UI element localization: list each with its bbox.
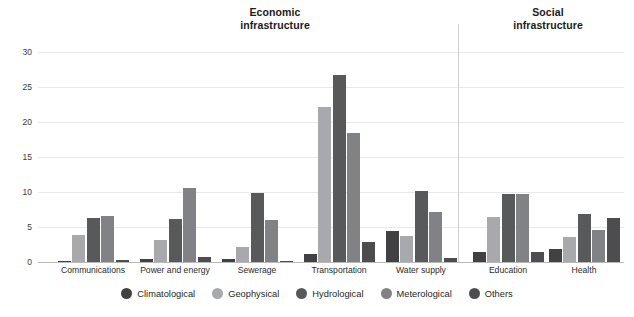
- section-title-economic-line2: infrastructure: [160, 19, 390, 32]
- bar: [516, 194, 529, 262]
- section-title-economic: Economic infrastructure: [160, 6, 390, 32]
- chart-legend: ClimatologicalGeophysicalHydrologicalMet…: [0, 288, 634, 299]
- bar-group: Health: [546, 52, 622, 262]
- bar: [154, 240, 167, 262]
- legend-item[interactable]: Climatological: [121, 288, 195, 299]
- bar: [304, 254, 317, 262]
- section-title-social: Social infrastructure: [478, 6, 618, 32]
- legend-item[interactable]: Meterological: [381, 288, 452, 299]
- y-axis-tick-label: 10: [23, 187, 32, 197]
- bar: [473, 252, 486, 263]
- section-title-economic-line1: Economic: [160, 6, 390, 19]
- bar-group: Education: [470, 52, 546, 262]
- bar: [415, 191, 428, 262]
- bar: [140, 259, 153, 262]
- bar: [58, 261, 71, 262]
- legend-label: Hydrological: [312, 289, 363, 299]
- bar: [101, 216, 114, 262]
- bar: [362, 242, 375, 262]
- section-title-social-line1: Social: [478, 6, 618, 19]
- legend-item[interactable]: Geophysical: [212, 288, 279, 299]
- bar-group: Power and energy: [134, 52, 216, 262]
- bar: [183, 188, 196, 262]
- plot-area: 051015202530 CommunicationsPower and ene…: [38, 52, 624, 262]
- bars-row: [380, 52, 462, 262]
- bars-row: [470, 52, 546, 262]
- y-axis-tick-label: 5: [27, 222, 32, 232]
- bar: [236, 247, 249, 262]
- bars-row: [298, 52, 380, 262]
- bar: [578, 214, 591, 262]
- bar: [198, 257, 211, 262]
- bar: [444, 258, 457, 262]
- bar: [169, 219, 182, 262]
- legend-swatch-icon: [296, 288, 307, 299]
- bar: [429, 212, 442, 262]
- bar: [347, 133, 360, 263]
- bar: [87, 218, 100, 262]
- bar: [251, 193, 264, 262]
- bar: [333, 75, 346, 262]
- bars-row: [216, 52, 298, 262]
- x-axis-category-label: Power and energy: [140, 265, 210, 275]
- x-axis-category-label: Communications: [61, 265, 125, 275]
- bars-row: [134, 52, 216, 262]
- legend-label: Others: [485, 289, 513, 299]
- bar: [222, 259, 235, 262]
- bar: [502, 194, 515, 262]
- y-axis-tick-label: 0: [27, 257, 32, 267]
- bars-row: [52, 52, 134, 262]
- legend-swatch-icon: [121, 288, 132, 299]
- bar: [116, 260, 129, 262]
- bar: [563, 237, 576, 262]
- bar-group: Sewerage: [216, 52, 298, 262]
- bar-chart: Economic infrastructure Social infrastru…: [0, 0, 634, 317]
- bar: [592, 230, 605, 262]
- y-axis-tick-label: 20: [23, 117, 32, 127]
- section-title-social-line2: infrastructure: [478, 19, 618, 32]
- x-axis-category-label: Water supply: [396, 265, 446, 275]
- bar: [400, 236, 413, 262]
- bar-group: Transportation: [298, 52, 380, 262]
- legend-swatch-icon: [381, 288, 392, 299]
- y-axis-tick-label: 30: [23, 47, 32, 57]
- y-axis-tick-label: 25: [23, 82, 32, 92]
- bar: [265, 220, 278, 262]
- bar-group: Water supply: [380, 52, 462, 262]
- bar-group: Communications: [52, 52, 134, 262]
- bar: [280, 261, 293, 262]
- bar: [487, 217, 500, 263]
- bar: [531, 252, 544, 262]
- bar: [72, 235, 85, 262]
- legend-swatch-icon: [212, 288, 223, 299]
- bar: [318, 107, 331, 262]
- legend-label: Climatological: [137, 289, 195, 299]
- legend-label: Geophysical: [228, 289, 279, 299]
- legend-label: Meterological: [397, 289, 452, 299]
- legend-item[interactable]: Others: [469, 288, 513, 299]
- x-axis-category-label: Education: [489, 265, 527, 275]
- bars-row: [546, 52, 622, 262]
- bar: [386, 231, 399, 262]
- x-axis-category-label: Transportation: [311, 265, 366, 275]
- axis-baseline: [38, 262, 624, 263]
- bar: [607, 218, 620, 262]
- bar: [549, 249, 562, 262]
- y-axis-tick-label: 15: [23, 152, 32, 162]
- legend-item[interactable]: Hydrological: [296, 288, 363, 299]
- legend-swatch-icon: [469, 288, 480, 299]
- x-axis-category-label: Health: [572, 265, 597, 275]
- x-axis-category-label: Sewerage: [238, 265, 277, 275]
